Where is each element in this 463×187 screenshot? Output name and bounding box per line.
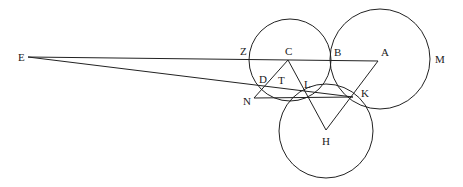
point-label-B: B [334,47,341,58]
line-N-K [254,97,353,98]
point-label-L: L [304,79,311,90]
point-label-T: T [278,75,285,86]
point-label-D: D [259,74,267,85]
point-label-E: E [18,52,25,63]
diagram-canvas [0,0,463,187]
point-label-A: A [381,47,389,58]
line-E-A [28,57,378,61]
point-label-C: C [285,46,292,57]
line-E-K [28,57,353,97]
point-label-M: M [435,54,445,65]
line-A-H [326,61,378,130]
line-C-H [288,60,326,130]
point-label-Z: Z [240,46,247,57]
circle-BAM [330,9,430,109]
point-label-H: H [322,136,330,147]
point-label-N: N [243,96,251,107]
point-label-K: K [361,88,369,99]
geometry-diagram: EZCBAMDTLKNH [0,0,463,187]
